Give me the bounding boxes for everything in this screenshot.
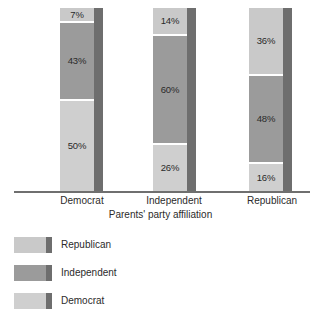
- bar-democrat-front-face: 7% 43% 50%: [60, 8, 94, 191]
- segment-label: 50%: [68, 141, 86, 151]
- bar-republican-front-face: 36% 48% 16%: [249, 8, 283, 191]
- legend-label-democrat: Democrat: [61, 295, 104, 306]
- legend-label-republican: Republican: [61, 239, 111, 250]
- segment-republican-independent[interactable]: 48%: [249, 74, 283, 162]
- segment-label: 7%: [70, 10, 83, 20]
- x-tick-label-democrat: Democrat: [46, 195, 118, 206]
- segment-label: 16%: [257, 173, 275, 183]
- swatch-front-face: [14, 237, 46, 253]
- segment-democrat-independent[interactable]: 43%: [60, 21, 94, 100]
- segment-label: 14%: [161, 16, 179, 26]
- bar-independent-front-face: 14% 60% 26%: [153, 8, 187, 191]
- x-tick-label-republican: Republican: [234, 195, 310, 206]
- bar-independent[interactable]: 14% 60% 26%: [153, 8, 196, 191]
- x-axis-title: Parents' party affiliation: [0, 209, 321, 220]
- legend-item-democrat[interactable]: Democrat: [14, 292, 104, 309]
- bar-independent-side-face: [187, 8, 196, 191]
- segment-label: 43%: [68, 56, 86, 66]
- segment-republican-democrat[interactable]: 16%: [249, 162, 283, 191]
- segment-label: 60%: [161, 85, 179, 95]
- segment-independent-democrat[interactable]: 26%: [153, 143, 187, 191]
- segment-label: 36%: [257, 36, 275, 46]
- x-axis-line: [14, 191, 310, 193]
- segment-label: 26%: [161, 163, 179, 173]
- segment-democrat-republican[interactable]: 7%: [60, 8, 94, 21]
- swatch-side-face: [46, 265, 52, 281]
- bar-democrat[interactable]: 7% 43% 50%: [60, 8, 103, 191]
- legend: Republican Independent Democrat Youths' …: [0, 228, 321, 328]
- legend-label-independent: Independent: [61, 267, 117, 278]
- swatch-front-face: [14, 265, 46, 281]
- plot-area: 7% 43% 50% 14% 60% 26%: [0, 0, 321, 200]
- segment-republican-republican[interactable]: 36%: [249, 8, 283, 74]
- legend-swatch-democrat: [14, 293, 52, 309]
- legend-swatch-independent: [14, 265, 52, 281]
- bar-democrat-side-face: [94, 8, 103, 191]
- stacked-bar-chart: 7% 43% 50% 14% 60% 26%: [0, 0, 321, 328]
- segment-independent-republican[interactable]: 14%: [153, 8, 187, 34]
- x-tick-label-independent: Independent: [134, 195, 214, 206]
- swatch-side-face: [46, 237, 52, 253]
- segment-independent-independent[interactable]: 60%: [153, 34, 187, 144]
- swatch-front-face: [14, 293, 46, 309]
- swatch-side-face: [46, 293, 52, 309]
- legend-item-republican[interactable]: Republican: [14, 236, 111, 253]
- segment-democrat-democrat[interactable]: 50%: [60, 99, 94, 191]
- legend-swatch-republican: [14, 237, 52, 253]
- bar-republican-side-face: [283, 8, 292, 191]
- segment-label: 48%: [257, 114, 275, 124]
- legend-item-independent[interactable]: Independent: [14, 264, 117, 281]
- bar-republican[interactable]: 36% 48% 16%: [249, 8, 292, 191]
